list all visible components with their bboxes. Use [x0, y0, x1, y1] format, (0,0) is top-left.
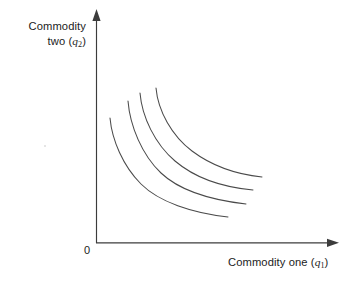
- y-axis-label-line2-close: ): [82, 35, 86, 47]
- x-axis-label-text: Commodity one (: [228, 256, 315, 268]
- x-axis-arrowhead-icon: [327, 239, 339, 247]
- x-axis-label: Commodity one (q1): [228, 255, 328, 274]
- indifference-curve-4: [156, 88, 262, 177]
- indifference-curves: [110, 88, 262, 217]
- x-axis-label-close: ): [325, 256, 329, 268]
- y-axis-label: Commodity two (q2): [6, 19, 86, 52]
- y-axis-arrowhead-icon: [92, 9, 100, 21]
- origin-label: 0: [84, 243, 90, 258]
- indifference-curve-figure: Commodity two (q2) Commodity one (q1) 0: [0, 0, 355, 282]
- y-axis-label-line2: two (q2): [6, 34, 86, 53]
- y-axis-label-line2-text: two (: [48, 35, 73, 47]
- y-axis: [92, 9, 100, 243]
- indifference-curve-3: [140, 93, 253, 190]
- indifference-curve-1: [110, 118, 228, 217]
- y-axis-label-line1: Commodity: [29, 20, 86, 32]
- scan-speck: [44, 145, 46, 147]
- x-axis: [96, 239, 339, 247]
